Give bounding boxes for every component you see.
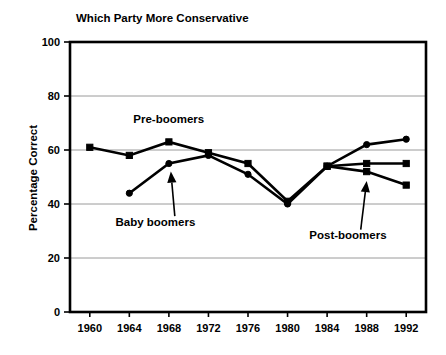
y-tick-label-100: 100 [42, 36, 60, 48]
y-tick-label-60: 60 [48, 144, 60, 156]
x-tick-label-1984: 1984 [315, 322, 340, 334]
chart-container: Which Party More Conservative Percentage… [0, 0, 446, 355]
annotation-post-boomers: Post-boomers [309, 229, 386, 241]
data-point-baby-boomers-1980 [284, 201, 290, 207]
data-point-baby-boomers-1972 [205, 152, 211, 158]
x-tick-label-1972: 1972 [196, 322, 220, 334]
y-tick-label-0: 0 [54, 306, 60, 318]
data-point-baby-boomers-1976 [245, 171, 251, 177]
data-point-pre-boomers-1992 [403, 160, 409, 166]
data-point-pre-boomers-1960 [87, 144, 93, 150]
annotation-pre-boomers: Pre-boomers [133, 113, 204, 125]
data-point-post-boomers-1988 [364, 169, 370, 175]
x-tick-label-1992: 1992 [394, 322, 418, 334]
x-tick-label-1964: 1964 [117, 322, 142, 334]
data-point-baby-boomers-1968 [166, 160, 172, 166]
x-tick-label-1976: 1976 [236, 322, 260, 334]
y-tick-label-40: 40 [48, 198, 60, 210]
data-point-baby-boomers-1992 [403, 136, 409, 142]
line-chart: Which Party More Conservative Percentage… [0, 0, 446, 355]
x-tick-label-1960: 1960 [78, 322, 102, 334]
data-point-pre-boomers-1976 [245, 160, 251, 166]
data-point-post-boomers-1992 [403, 182, 409, 188]
x-tick-label-1968: 1968 [157, 322, 181, 334]
chart-title: Which Party More Conservative [76, 12, 249, 24]
y-tick-label-80: 80 [48, 90, 60, 102]
data-point-baby-boomers-1964 [126, 190, 132, 196]
data-point-pre-boomers-1988 [364, 160, 370, 166]
x-tick-label-1988: 1988 [354, 322, 378, 334]
data-point-baby-boomers-1988 [364, 142, 370, 148]
x-tick-label-1980: 1980 [275, 322, 299, 334]
y-axis-title: Percentage Correct [27, 125, 39, 231]
y-tick-label-20: 20 [48, 252, 60, 264]
data-point-post-boomers-1984 [324, 163, 330, 169]
data-point-pre-boomers-1968 [166, 139, 172, 145]
annotation-baby-boomers: Baby boomers [115, 216, 195, 228]
x-axis-tick-labels: 196019641968197219761980198419881992 [78, 322, 419, 334]
data-point-pre-boomers-1964 [126, 152, 132, 158]
chart-background [0, 0, 446, 355]
